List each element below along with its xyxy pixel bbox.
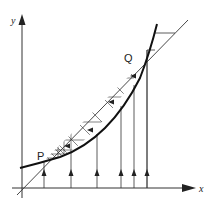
function-curve [20, 24, 157, 168]
hatched-region [30, 55, 162, 190]
axes: y x [10, 14, 204, 198]
up-arrow-icon [42, 169, 47, 176]
up-arrow-icon [95, 169, 100, 176]
point-p-label: P [37, 150, 44, 162]
fixed-point-iteration-diagram: y x [0, 0, 214, 205]
y-axis-arrow-icon [19, 14, 26, 25]
up-arrow-icon [69, 169, 74, 176]
up-arrow-icon [145, 169, 150, 176]
y-axis-label: y [10, 15, 16, 26]
x-axis-label: x [198, 183, 204, 194]
x-axis-arrow-icon [182, 184, 196, 192]
diagonal-line [17, 20, 188, 195]
vertical-arrows [44, 50, 147, 188]
left-arrow-icon [87, 128, 93, 133]
up-arrow-icon [132, 169, 137, 176]
cobweb-steps-upper [147, 33, 175, 188]
point-q-label: Q [124, 52, 133, 64]
up-arrow-icon [119, 169, 124, 176]
arrowheads [42, 169, 150, 176]
